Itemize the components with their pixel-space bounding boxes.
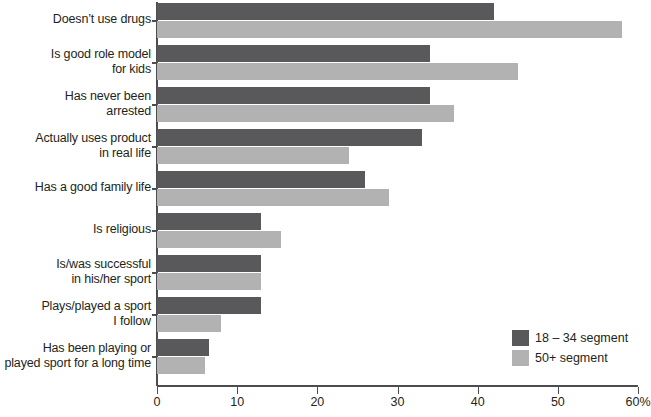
chart-category-row: Is religious: [157, 211, 646, 253]
x-axis-tick-label: 10: [230, 395, 244, 409]
legend-label: 18 – 34 segment: [535, 331, 628, 345]
category-label-line: in real life: [0, 146, 151, 161]
category-label-line: for kids: [0, 62, 151, 77]
bar-young: [157, 45, 430, 62]
category-label-line: Actually uses product: [0, 131, 151, 146]
x-axis-tick: [558, 387, 559, 394]
legend-entry: 18 – 34 segment: [512, 328, 628, 348]
category-label: Is/was successfulin his/her sport: [0, 257, 151, 286]
bar-older: [157, 147, 349, 164]
x-axis-tick-label: 30: [391, 395, 405, 409]
bar-young: [157, 3, 494, 20]
category-label: Has been playing orplayed sport for a lo…: [0, 341, 151, 370]
x-axis-tick: [317, 387, 318, 394]
category-label-line: Doesn’t use drugs: [0, 12, 151, 27]
category-label-line: I follow: [0, 314, 151, 329]
chart-category-row: Actually uses productin real life: [157, 127, 646, 169]
bar-older: [157, 231, 281, 248]
chart-category-row: Has a good family life: [157, 169, 646, 211]
chart-category-row: Is/was successfulin his/her sport: [157, 253, 646, 295]
x-axis-tick: [237, 387, 238, 394]
category-label: Is religious: [0, 222, 151, 237]
category-label: Actually uses productin real life: [0, 131, 151, 160]
category-label: Has never beenarrested: [0, 89, 151, 118]
chart-category-row: Doesn’t use drugs: [157, 1, 646, 43]
legend-label: 50+ segment: [535, 351, 608, 365]
legend-swatch: [512, 350, 529, 366]
bar-young: [157, 255, 261, 272]
category-label-line: Is/was successful: [0, 257, 151, 272]
chart-legend: 18 – 34 segment50+ segment: [512, 328, 628, 368]
bar-older: [157, 357, 205, 374]
x-axis-tick: [638, 387, 639, 394]
bar-young: [157, 297, 261, 314]
category-label-line: in his/her sport: [0, 272, 151, 287]
category-label: Plays/played a sportI follow: [0, 299, 151, 328]
legend-entry: 50+ segment: [512, 348, 628, 368]
bar-older: [157, 63, 518, 80]
legend-swatch: [512, 330, 529, 346]
x-axis-tick-label: 60%: [625, 395, 650, 409]
chart-category-row: Is good role modelfor kids: [157, 43, 646, 85]
category-label: Has a good family life: [0, 180, 151, 195]
x-axis-tick: [157, 387, 158, 394]
x-axis-tick-label: 20: [310, 395, 324, 409]
bar-older: [157, 105, 454, 122]
category-label-line: Has a good family life: [0, 180, 151, 195]
bar-young: [157, 129, 422, 146]
bar-young: [157, 171, 365, 188]
category-label: Doesn’t use drugs: [0, 12, 151, 27]
category-label-line: Plays/played a sport: [0, 299, 151, 314]
bar-older: [157, 273, 261, 290]
category-label: Is good role modelfor kids: [0, 47, 151, 76]
x-axis-tick-label: 0: [154, 395, 161, 409]
bar-older: [157, 315, 221, 332]
x-axis-tick-label: 40: [471, 395, 485, 409]
bar-older: [157, 21, 622, 38]
x-axis-tick: [398, 387, 399, 394]
x-axis-tick: [478, 387, 479, 394]
category-label-line: Is good role model: [0, 47, 151, 62]
category-label-line: played sport for a long time: [0, 356, 151, 371]
bar-young: [157, 213, 261, 230]
category-label-line: Has been playing or: [0, 341, 151, 356]
bar-young: [157, 339, 209, 356]
category-label-line: Has never been: [0, 89, 151, 104]
category-label-line: Is religious: [0, 222, 151, 237]
chart-category-row: Has never beenarrested: [157, 85, 646, 127]
category-label-line: arrested: [0, 104, 151, 119]
x-axis-tick-label: 50: [551, 395, 565, 409]
bar-young: [157, 87, 430, 104]
bar-older: [157, 189, 389, 206]
